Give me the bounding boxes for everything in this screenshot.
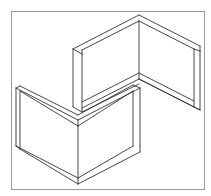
upper-wall-edge (139, 21, 194, 49)
upper-wall-edge (73, 107, 82, 112)
lower-wall-edge (16, 88, 78, 120)
lower-wall-edge (20, 86, 78, 115)
upper-wall-edge (139, 15, 200, 46)
lower-l-wall (16, 85, 140, 184)
upper-wall-edge (82, 21, 139, 50)
lower-wall-edge (20, 149, 78, 184)
upper-wall-edge (194, 49, 200, 51)
lower-wall-edge (78, 146, 133, 178)
lower-wall-edge (16, 86, 20, 88)
upper-wall-edge (73, 15, 139, 49)
upper-wall-edge (139, 73, 194, 101)
upper-wall-edge (139, 79, 200, 110)
lower-wall-edge (20, 91, 78, 126)
upper-wall-edge (73, 49, 82, 54)
upper-l-wall (73, 15, 200, 112)
lower-wall-edge (78, 152, 140, 184)
isometric-drawing (0, 0, 211, 196)
lower-wall-edge (16, 146, 78, 178)
